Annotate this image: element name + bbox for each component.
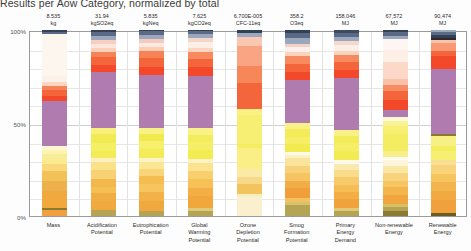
bar-eutrophication-potential[interactable] [139,30,164,216]
chart-caption: Results per Aow Category, normalized by … [0,0,471,9]
bar-segment [237,197,262,216]
bar-segment [383,39,408,51]
bar-segment [431,200,456,213]
x-axis-label: AcidificationPotential [75,222,130,237]
bar-segment [237,46,262,66]
bar-segment [383,62,408,79]
bar-segment [188,150,213,159]
category-separator [322,32,323,216]
x-axis-label: OzoneDepletionPotential [221,222,276,244]
category-separator [127,32,128,216]
bar-segment [188,196,213,208]
x-axis-label-line: Primary [318,222,373,229]
bar-segment [188,128,213,135]
category-separator [371,32,372,216]
x-axis-label-line: Potential [75,229,130,236]
x-axis-label: EutrophicationPotential [123,222,178,237]
bar-segment [91,57,116,65]
bar-segment [91,134,116,143]
bar-segment [285,129,310,137]
bar-segment [383,195,408,204]
x-axis-label: SmogFormationPotential [269,222,324,244]
bar-segment [431,213,456,216]
category-separator [176,32,177,216]
bar-segment [237,115,262,145]
bar-segment [383,173,408,181]
bar-segment [91,210,116,216]
bar-segment [42,181,67,191]
bar-ozone-depletion-potential[interactable] [237,30,262,216]
x-axis-label-line: Non-renewable [367,222,422,229]
plot-area [29,31,467,217]
bar-segment [139,51,164,58]
x-axis-label-line: Renewable [415,222,470,229]
bar-segment [431,191,456,199]
bar-segment [334,62,359,70]
bar-segment [285,188,310,198]
bar-segment [188,67,213,76]
bar-segment [237,184,262,193]
y-axis-tick: 100% [0,28,26,35]
bar-segment [334,192,359,199]
bar-segment [383,91,408,101]
bar-mass[interactable] [42,30,67,216]
bar-segment [42,200,67,208]
bar-segment [334,151,359,160]
bar-segment [334,170,359,178]
bar-segment [91,128,116,135]
bar-segment [285,205,310,216]
x-axis-label-line: Potential [221,237,276,244]
x-axis-label-line: Formation [269,229,324,236]
bar-acidification-potential[interactable] [91,30,116,216]
bar-segment [91,151,116,159]
bar-segment [431,43,456,50]
bar-segment [383,181,408,188]
y-axis-tick: 0% [0,214,26,221]
bar-global-warming-potential[interactable] [188,30,213,216]
bar-non-renewable-energy[interactable] [383,30,408,216]
bar-segment [334,55,359,62]
bar-segment [42,164,67,172]
bar-segment [285,144,310,151]
bar-segment [431,182,456,191]
x-axis-label-line: Global [172,222,227,229]
x-axis-label-line: Demand [318,237,373,244]
x-axis-label: GlobalWarmingPotential [172,222,227,244]
x-axis-label-line: Eutrophication [123,222,178,229]
bar-renewable-energy[interactable] [431,30,456,216]
bar-segment [285,137,310,144]
bar-segment [285,173,310,180]
y-axis-tick: 50% [0,121,26,128]
bar-segment [188,188,213,196]
bar-smog-formation-potential[interactable] [285,30,310,216]
bar-segment [383,110,408,118]
bar-segment [431,56,456,69]
bar-segment [237,37,262,46]
bar-primary-energy-demand[interactable] [334,30,359,216]
category-total-unit: MJ [414,20,471,27]
x-axis-label-line: Energy [367,229,422,236]
bar-segment [139,149,164,158]
bar-segment [431,151,456,160]
chart-root: Results per Aow Category, normalized by … [0,0,471,251]
x-axis-label: RenewableEnergy [415,222,470,237]
bar-segment [42,101,67,146]
x-axis-label-line: Potential [172,237,227,244]
bar-segment [285,80,310,123]
bar-segment [91,65,116,72]
bar-segment [139,169,164,177]
bar-segment [139,201,164,212]
bar-segment [139,211,164,216]
bar-segment [431,136,456,145]
bar-segment [334,177,359,185]
bar-segment [237,66,262,83]
bar-segment [139,176,164,184]
bar-segment [285,64,310,72]
bar-segment [383,134,408,151]
bar-segment [334,136,359,144]
bar-segment [237,148,262,168]
x-axis-label-line: Potential [269,237,324,244]
x-axis-label-line: Warming [172,229,227,236]
category-separator [273,32,274,216]
category-separator [225,32,226,216]
